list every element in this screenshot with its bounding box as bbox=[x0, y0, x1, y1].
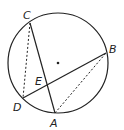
center-point bbox=[57, 62, 60, 65]
label-C: C bbox=[23, 9, 31, 22]
segment-AB bbox=[55, 53, 106, 113]
circle-diagram: A B C D E bbox=[0, 0, 124, 130]
label-D: D bbox=[13, 101, 21, 114]
chord-CA bbox=[30, 23, 55, 113]
label-E: E bbox=[35, 75, 42, 88]
segment-CD bbox=[23, 23, 30, 98]
label-B: B bbox=[109, 43, 117, 56]
label-A: A bbox=[49, 117, 58, 130]
